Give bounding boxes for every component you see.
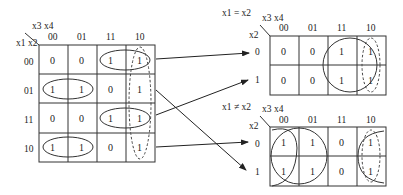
- main-col-header: 11: [106, 32, 115, 42]
- top-cell: 1: [339, 75, 344, 86]
- bottom-cols-var-label: x3 x4: [262, 104, 284, 114]
- main-cell: 1: [108, 113, 113, 124]
- bottom-map-title: x1 ≠ x2: [222, 102, 251, 112]
- top-cell: 0: [310, 46, 315, 57]
- corner-diagonal: [260, 116, 270, 127]
- main-col-header: 10: [135, 32, 145, 42]
- main-cell: 0: [50, 55, 55, 66]
- top-col-header: 11: [337, 23, 346, 33]
- top-cell: 0: [310, 75, 315, 86]
- bottom-col-header: 00: [279, 115, 289, 125]
- main-cell: 0: [50, 113, 55, 124]
- bottom-col-header: 01: [308, 115, 318, 125]
- karnaugh-map-diagram: x3 x4 x1 x2 00 01 11 10 00 01 11 10 0 0 …: [0, 0, 403, 195]
- main-cell: 0: [79, 113, 84, 124]
- top-col-header: 00: [279, 23, 289, 33]
- main-cell: 1: [50, 84, 55, 95]
- bottom-cell: 1: [310, 137, 315, 148]
- top-cell: 0: [281, 46, 286, 57]
- main-cell: 0: [108, 142, 113, 153]
- bottom-cell: 1: [281, 166, 286, 177]
- top-map-title: x1 = x2: [222, 8, 251, 18]
- bottom-cell: 1: [368, 137, 373, 148]
- arrow-row00-to-top-row0: [156, 53, 249, 59]
- top-row-header: 0: [255, 47, 260, 57]
- main-cell: 0: [79, 55, 84, 66]
- top-cols-var-label: x3 x4: [262, 13, 284, 23]
- bottom-kmap: x1 ≠ x2 x3 x4 x2 00 01 11 10 0 1 1 1 0 1…: [222, 102, 386, 186]
- bottom-row-header: 1: [255, 167, 260, 177]
- main-col-header: 01: [77, 32, 87, 42]
- bottom-cell: 0: [339, 137, 344, 148]
- top-rows-var-label: x2: [249, 30, 259, 40]
- main-col-header: 00: [48, 32, 58, 42]
- top-kmap: x1 = x2 x3 x4 x2 00 01 11 10 0 1 0 0 1 1…: [222, 8, 386, 95]
- main-cell: 1: [79, 142, 84, 153]
- main-cell: 1: [137, 113, 142, 124]
- bottom-cell: 0: [339, 166, 344, 177]
- corner-diagonal: [260, 25, 270, 36]
- main-cols-var-label: x3 x4: [32, 21, 54, 31]
- bottom-cell: 1: [368, 166, 373, 177]
- main-kmap: x3 x4 x1 x2 00 01 11 10 00 01 11 10 0 0 …: [16, 21, 155, 162]
- main-cell: 1: [79, 84, 84, 95]
- top-cell: 0: [281, 75, 286, 86]
- bottom-cell: 1: [310, 166, 315, 177]
- bottom-cell: 1: [281, 137, 286, 148]
- main-rows-var-label: x1 x2: [16, 38, 38, 48]
- arrow-row10-to-bottom-row0: [156, 142, 248, 147]
- main-cell: 1: [137, 55, 142, 66]
- top-col-header: 10: [366, 23, 376, 33]
- main-cell: 1: [50, 142, 55, 153]
- bottom-rows-var-label: x2: [249, 121, 259, 131]
- main-cell: 1: [108, 55, 113, 66]
- main-row-header: 01: [24, 86, 34, 96]
- main-row-header: 10: [24, 144, 34, 154]
- main-cell: 0: [108, 84, 113, 95]
- top-cell: 1: [339, 46, 344, 57]
- top-row-header: 1: [255, 75, 260, 85]
- main-cell: 1: [137, 142, 142, 153]
- bottom-row-header: 0: [255, 139, 260, 149]
- main-cell: 1: [137, 84, 142, 95]
- bottom-col-header: 10: [366, 115, 376, 125]
- top-col-header: 01: [308, 23, 318, 33]
- main-row-header: 00: [24, 57, 34, 67]
- bottom-col-header: 11: [337, 115, 346, 125]
- main-row-header: 11: [24, 115, 33, 125]
